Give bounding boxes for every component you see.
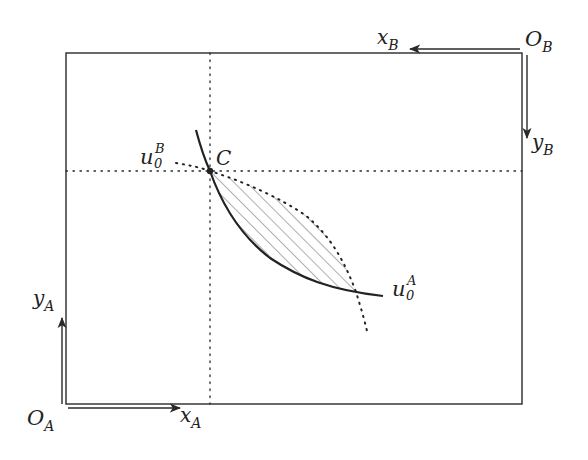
edgeworth-box-diagram: OA OB xA yA xB yB C u B 0 u A 0 [0, 0, 588, 460]
curve-uA-sup: A [406, 273, 416, 288]
xA-label: xA [180, 403, 201, 431]
origin-B-label: OB [525, 27, 553, 55]
xB-label: xB [377, 25, 399, 53]
point-C [207, 168, 213, 174]
yA-label: yA [32, 286, 54, 314]
curve-uB-sup: B [154, 141, 165, 156]
curve-uB-sub: 0 [154, 156, 162, 171]
curve-uA-sub: 0 [406, 288, 414, 303]
yB-label: yB [531, 130, 554, 158]
curve-uA-label: u [392, 277, 406, 301]
hatched-lens-region [200, 165, 370, 300]
curve-uB-label: u [140, 145, 154, 169]
origin-A-label: OA [27, 406, 54, 434]
point-C-label: C [216, 146, 231, 170]
